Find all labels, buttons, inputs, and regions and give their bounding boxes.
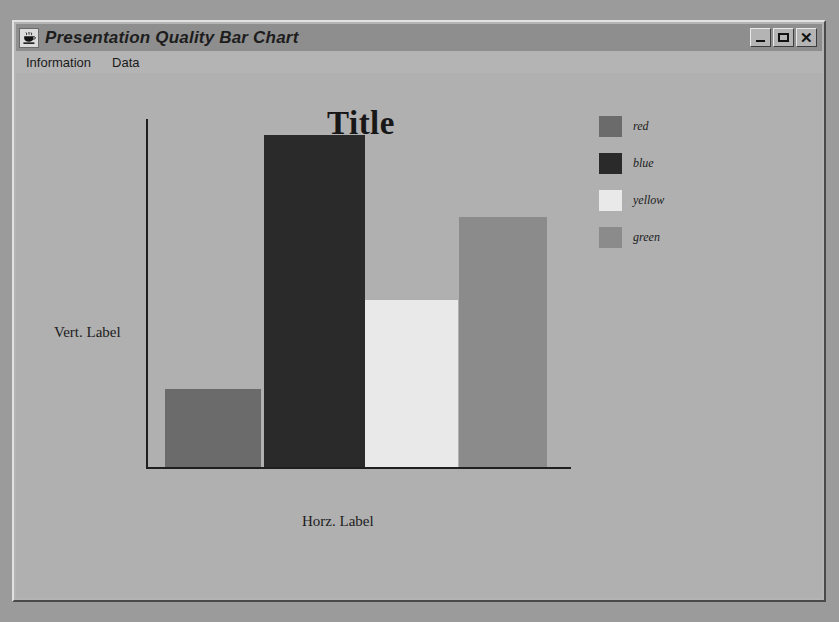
legend-item-blue: blue [599,145,664,182]
bar-green [459,217,547,467]
bar-yellow [365,300,458,467]
bar-red [165,389,261,467]
legend-item-yellow: yellow [599,182,664,219]
menu-item-information[interactable]: Information [22,54,100,71]
close-icon: ✕ [800,30,813,45]
legend-label-blue: blue [633,156,654,171]
window-controls: ✕ [750,28,817,47]
chart-canvas: Title Vert. Label Horz. Label redblueyel… [16,73,822,598]
java-coffee-cup-icon [19,28,39,48]
legend-label-yellow: yellow [633,193,664,208]
legend-swatch-blue [599,153,622,174]
legend-label-red: red [633,119,649,134]
legend-item-green: green [599,219,664,256]
legend-swatch-red [599,116,622,137]
maximize-icon [778,33,789,42]
minimize-icon [756,40,765,42]
minimize-button[interactable] [750,28,771,47]
maximize-button[interactable] [773,28,794,47]
menu-bar: Information Data [16,51,822,73]
chart-legend: redblueyellowgreen [599,108,664,256]
title-bar[interactable]: Presentation Quality Bar Chart ✕ [16,24,822,51]
legend-swatch-yellow [599,190,622,211]
application-window: Presentation Quality Bar Chart ✕ Informa… [12,20,826,602]
menu-item-data[interactable]: Data [108,54,148,71]
legend-item-red: red [599,108,664,145]
screen: Presentation Quality Bar Chart ✕ Informa… [0,0,839,622]
close-button[interactable]: ✕ [796,28,817,47]
bar-series [16,73,822,598]
window-title: Presentation Quality Bar Chart [45,28,750,48]
legend-label-green: green [633,230,660,245]
bar-blue [264,135,365,467]
legend-swatch-green [599,227,622,248]
